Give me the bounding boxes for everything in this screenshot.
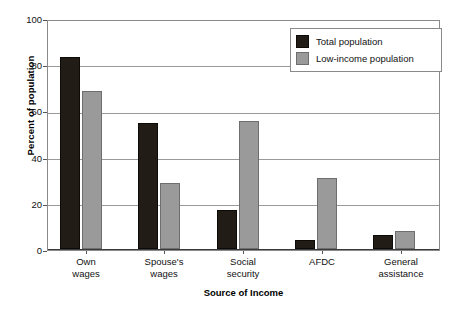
legend-label: Low-income population bbox=[316, 53, 414, 64]
x-label-spouses-wages: Spouse's wages bbox=[125, 256, 203, 279]
y-tick-label-80: 80 bbox=[16, 61, 42, 71]
x-label-afdc: AFDC bbox=[283, 256, 361, 268]
x-tick-mark bbox=[322, 251, 323, 254]
bar-low-income-population bbox=[239, 121, 259, 249]
y-tick-label-100: 100 bbox=[16, 15, 42, 25]
legend-swatch-icon bbox=[296, 52, 309, 65]
legend-item-low-income-population: Low-income population bbox=[296, 50, 436, 67]
y-tick-mark-0 bbox=[43, 251, 47, 252]
x-label-line: wages bbox=[47, 268, 125, 280]
bar-low-income-population bbox=[317, 178, 337, 249]
chart-legend: Total population Low-income population bbox=[290, 28, 442, 72]
bar-total-population bbox=[373, 235, 393, 249]
x-label-line: AFDC bbox=[283, 256, 361, 268]
legend-item-total-population: Total population bbox=[296, 33, 436, 50]
x-label-general-assistance: General assistance bbox=[362, 256, 440, 279]
x-label-social-security: Social security bbox=[204, 256, 282, 279]
bar-chart: Percent of population 100 80 60 40 20 0 … bbox=[0, 0, 456, 311]
bar-total-population bbox=[295, 240, 315, 249]
x-label-line: Social bbox=[204, 256, 282, 268]
x-label-line: security bbox=[204, 268, 282, 280]
bar-low-income-population bbox=[160, 183, 180, 249]
x-label-line: assistance bbox=[362, 268, 440, 280]
x-tick-mark bbox=[401, 251, 402, 254]
bar-low-income-population bbox=[82, 91, 102, 249]
x-tick-mark bbox=[164, 251, 165, 254]
x-label-line: Spouse's bbox=[125, 256, 203, 268]
y-tick-label-60: 60 bbox=[16, 107, 42, 117]
bar-total-population bbox=[217, 210, 237, 249]
y-tick-label-0: 0 bbox=[16, 246, 42, 256]
x-tick-mark bbox=[243, 251, 244, 254]
bar-low-income-population bbox=[395, 231, 415, 249]
y-axis-ticks: 100 80 60 40 20 0 bbox=[14, 0, 42, 311]
legend-swatch-icon bbox=[296, 35, 309, 48]
x-label-line: Own bbox=[47, 256, 125, 268]
x-label-line: wages bbox=[125, 268, 203, 280]
bar-total-population bbox=[60, 57, 80, 249]
legend-label: Total population bbox=[316, 36, 383, 47]
x-label-line: General bbox=[362, 256, 440, 268]
x-axis-title: Source of Income bbox=[47, 287, 440, 298]
x-tick-mark bbox=[86, 251, 87, 254]
x-label-own-wages: Own wages bbox=[47, 256, 125, 279]
bar-total-population bbox=[138, 123, 158, 249]
y-tick-label-40: 40 bbox=[16, 154, 42, 164]
y-tick-label-20: 20 bbox=[16, 200, 42, 210]
